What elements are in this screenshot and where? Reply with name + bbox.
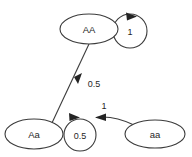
state-diagram: AA Aa aa 1 0.5 0.5 1 xyxy=(0,0,192,157)
edge-aa-to-Aa-weight: 1 xyxy=(101,101,106,111)
self-loop-Aa-weight: 0.5 xyxy=(74,131,87,141)
edge-Aa-to-AA xyxy=(51,44,89,125)
diagram-canvas: AA Aa aa 1 0.5 0.5 1 xyxy=(0,0,192,157)
edge-Aa-to-AA-weight: 0.5 xyxy=(88,79,101,89)
edge-aa-to-Aa-arrowhead xyxy=(95,114,106,122)
self-loop-AA-weight: 1 xyxy=(127,27,132,37)
node-AA-label: AA xyxy=(83,24,96,35)
node-Aa-label: Aa xyxy=(28,129,40,140)
node-aa-label: aa xyxy=(150,129,161,140)
